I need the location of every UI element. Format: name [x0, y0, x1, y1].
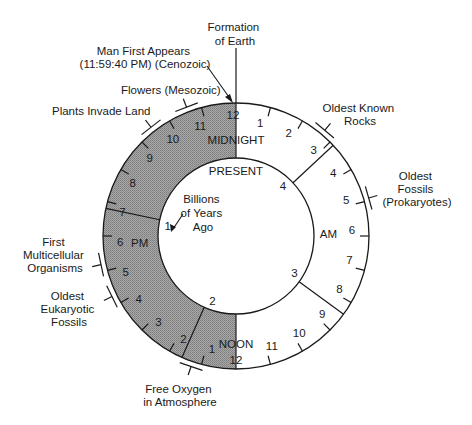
hour-tick — [268, 356, 270, 365]
am-label: AM — [320, 228, 337, 240]
hour-label: 5 — [343, 194, 349, 206]
inner-circle — [158, 158, 314, 314]
geologic-clock-diagram: 121234567891011121234567891011 1234 MIDN… — [0, 0, 472, 425]
hour-tick — [298, 121, 303, 129]
hour-label: 8 — [336, 283, 342, 295]
hour-tick — [356, 202, 365, 204]
event-man-label: Man First Appears (11:59:40 PM) (Cenozoi… — [80, 45, 211, 70]
billion-year-label: 2 — [209, 295, 215, 307]
multicellular-marker-stem — [92, 265, 101, 267]
hour-label: 5 — [122, 266, 128, 278]
event-formation-label: Formation of Earth — [208, 21, 263, 47]
hour-label: 1 — [209, 343, 215, 355]
oxygen-marker-stem — [188, 366, 191, 375]
hour-label: 9 — [319, 308, 325, 320]
hour-label: 11 — [266, 340, 278, 352]
event-flowers-label: Flowers (Mesozoic) — [121, 84, 221, 96]
billion-year-label: 4 — [280, 180, 287, 192]
billion-year-label: 3 — [291, 267, 297, 279]
hour-label: 2 — [285, 127, 291, 139]
event-multicellular-label: First Multicellular Organisms — [23, 236, 87, 274]
hour-label: 3 — [155, 316, 161, 328]
event-eukaryotic-label: Oldest Eukaryotic Fossils — [41, 290, 98, 328]
noon-label: NOON — [219, 338, 254, 350]
hour-tick — [343, 298, 351, 303]
flowers-marker-stem — [183, 99, 186, 107]
event-oxygen-label: Free Oxygen in Atmosphere — [143, 383, 217, 408]
hour-tick — [343, 170, 351, 175]
fossils-marker-stem — [369, 195, 378, 197]
eukaryotic-marker-stem — [104, 296, 112, 300]
hour-label: 10 — [293, 327, 306, 339]
hour-label: 10 — [166, 133, 179, 145]
present-label: PRESENT — [209, 165, 263, 177]
hour-tick — [356, 268, 365, 270]
hour-label: 3 — [310, 144, 316, 156]
hour-label: 6 — [117, 236, 123, 248]
event-rocks-label: Oldest Known Rocks — [323, 102, 398, 127]
billion-year-label: 1 — [164, 220, 170, 232]
hour-label: 2 — [180, 333, 186, 345]
rocks-marker-stem — [325, 123, 331, 130]
pm-label: PM — [131, 237, 148, 249]
hour-label: 4 — [136, 293, 143, 305]
hour-tick — [324, 324, 330, 330]
hour-tick — [268, 108, 270, 117]
hour-tick — [324, 142, 330, 148]
event-plants-label: Plants Invade Land — [52, 105, 150, 117]
hour-tick — [298, 343, 303, 351]
hour-label: 8 — [129, 177, 135, 189]
midnight-label: MIDNIGHT — [208, 134, 265, 146]
hour-label: 11 — [194, 120, 206, 132]
billions-caption: Billions of Years Ago — [181, 193, 226, 233]
man-arrowhead — [225, 94, 233, 103]
hour-label: 9 — [147, 152, 153, 164]
hour-label: 4 — [330, 167, 337, 179]
event-fossils-label: Oldest Fossils (Prokaryotes) — [382, 170, 451, 208]
hour-label: 7 — [346, 254, 352, 266]
plants-marker-stem — [145, 120, 151, 127]
hour-label: 6 — [349, 224, 355, 236]
hour-label: 12 — [227, 109, 240, 121]
hour-label: 1 — [257, 117, 263, 129]
